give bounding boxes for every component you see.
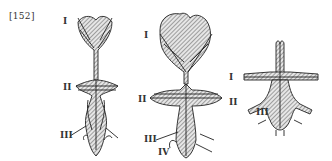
middle-label-iv: IV — [158, 147, 169, 157]
anatomical-figure — [0, 0, 332, 161]
diagram-right — [244, 41, 318, 136]
left-middle-cross — [76, 80, 118, 156]
middle-label-iii: III — [144, 134, 157, 144]
left-label-iii: III — [60, 130, 73, 140]
right-label-i: I — [229, 72, 233, 82]
middle-label-i: I — [144, 30, 148, 40]
middle-label-ii: II — [138, 94, 146, 104]
right-upper-arm — [244, 72, 318, 80]
diagram-middle — [150, 13, 222, 158]
right-label-iii: III — [256, 107, 269, 117]
left-label-ii: II — [63, 82, 71, 92]
right-label-ii: II — [229, 97, 237, 107]
left-top-lobes — [78, 16, 112, 80]
left-label-i: I — [63, 16, 67, 26]
diagram-left — [70, 16, 118, 156]
